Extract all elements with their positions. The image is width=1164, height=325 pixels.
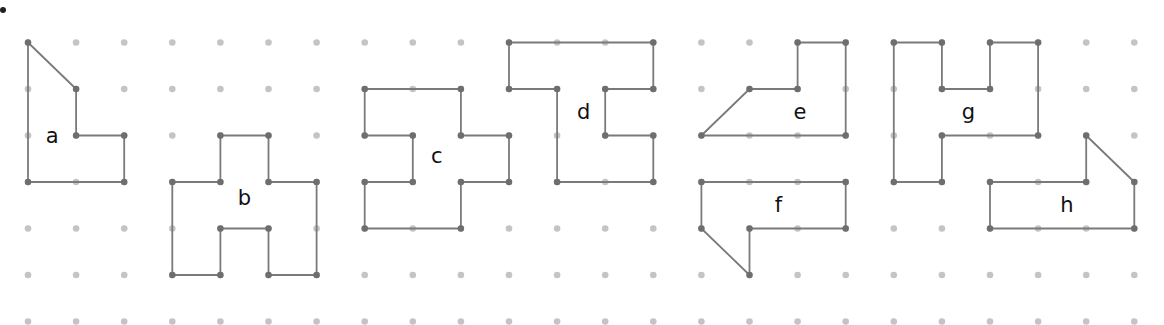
- grid-dot: [794, 318, 801, 325]
- vertex-dot: [1083, 179, 1089, 185]
- grid-dot: [121, 272, 128, 279]
- shape-label: f: [775, 193, 783, 217]
- vertex-dot: [313, 272, 319, 278]
- grid-dot: [1083, 272, 1090, 279]
- vertex-dot: [746, 225, 752, 231]
- vertex-dot: [939, 132, 945, 138]
- grid-dot: [73, 39, 80, 46]
- vertex-dot: [506, 86, 512, 92]
- vertex-dot: [458, 132, 464, 138]
- vertex-dot: [939, 39, 945, 45]
- shape-label: c: [431, 144, 443, 168]
- vertex-dot: [410, 132, 416, 138]
- vertex-dot: [1083, 132, 1089, 138]
- grid-dot: [410, 272, 417, 279]
- vertex-dot: [602, 132, 608, 138]
- grid-dot: [650, 225, 657, 232]
- shape-a: a: [25, 39, 128, 185]
- vertex-dot: [987, 225, 993, 231]
- grid-dot: [602, 272, 609, 279]
- grid-dot: [121, 225, 128, 232]
- shape-b: b: [169, 132, 320, 278]
- shape-outline: [701, 43, 845, 136]
- grid-dot: [842, 272, 849, 279]
- shape-e: e: [698, 39, 849, 138]
- shape-label: a: [46, 124, 59, 148]
- vertex-dot: [698, 132, 704, 138]
- grid-dot: [169, 86, 176, 93]
- vertex-dot: [987, 179, 993, 185]
- grid-dot: [121, 39, 128, 46]
- grid-dot: [73, 318, 80, 325]
- vertex-dot: [891, 39, 897, 45]
- shape-label: g: [962, 100, 975, 124]
- vertex-dot: [217, 179, 223, 185]
- vertex-dot: [73, 86, 79, 92]
- vertex-dot: [987, 39, 993, 45]
- vertex-dot: [217, 225, 223, 231]
- grid-dot: [410, 39, 417, 46]
- vertex-dot: [602, 86, 608, 92]
- grid-dot: [1035, 318, 1042, 325]
- grid-dot: [458, 39, 465, 46]
- grid-dot: [987, 272, 994, 279]
- grid-dot: [25, 318, 32, 325]
- vertex-dot: [458, 86, 464, 92]
- vertex-dot: [746, 86, 752, 92]
- grid-dot: [458, 318, 465, 325]
- vertex-dot: [410, 179, 416, 185]
- grid-dot: [891, 318, 898, 325]
- grid-dot: [313, 132, 320, 139]
- grid-dot: [650, 318, 657, 325]
- grid-dot: [554, 225, 561, 232]
- grid-dot: [506, 225, 513, 232]
- grid-dot: [1131, 39, 1138, 46]
- grid-dot: [73, 272, 80, 279]
- grid-dot: [121, 86, 128, 93]
- grid-dot: [313, 39, 320, 46]
- grid-dot: [458, 272, 465, 279]
- grid-dot: [602, 318, 609, 325]
- vertex-dot: [362, 225, 368, 231]
- grid-dot: [121, 318, 128, 325]
- vertex-dot: [1035, 39, 1041, 45]
- vertex-dot: [362, 86, 368, 92]
- vertex-dot: [1131, 225, 1137, 231]
- grid-dot: [939, 225, 946, 232]
- dot-grid-diagram: abcdefgh: [0, 0, 1164, 325]
- vertex-dot: [939, 86, 945, 92]
- grid-dot: [265, 86, 272, 93]
- grid-dot: [73, 225, 80, 232]
- grid-dot: [746, 39, 753, 46]
- grid-dot: [842, 318, 849, 325]
- vertex-dot: [217, 272, 223, 278]
- vertex-dot: [746, 272, 752, 278]
- grid-dot: [361, 272, 368, 279]
- grid-dot: [602, 225, 609, 232]
- vertex-dot: [121, 179, 127, 185]
- grid-dot: [554, 318, 561, 325]
- vertex-dot: [650, 39, 656, 45]
- vertex-dot: [458, 225, 464, 231]
- grid-dot: [698, 39, 705, 46]
- vertex-dot: [987, 86, 993, 92]
- shape-label: e: [794, 100, 807, 124]
- grid-dot: [217, 86, 224, 93]
- grid-dot: [650, 272, 657, 279]
- grid-dot: [746, 318, 753, 325]
- vertex-dot: [1131, 179, 1137, 185]
- vertex-dot: [939, 179, 945, 185]
- grid-dot: [939, 272, 946, 279]
- shape-label: b: [238, 186, 251, 210]
- grid-dot: [794, 272, 801, 279]
- vertex-dot: [506, 39, 512, 45]
- vertex-dot: [506, 132, 512, 138]
- grid-dot: [506, 318, 513, 325]
- grid-dot: [25, 225, 32, 232]
- vertex-dot: [891, 179, 897, 185]
- grid-dot: [554, 272, 561, 279]
- vertex-dot: [650, 86, 656, 92]
- grid-dot: [217, 39, 224, 46]
- vertex-dot: [265, 132, 271, 138]
- vertex-dot: [169, 179, 175, 185]
